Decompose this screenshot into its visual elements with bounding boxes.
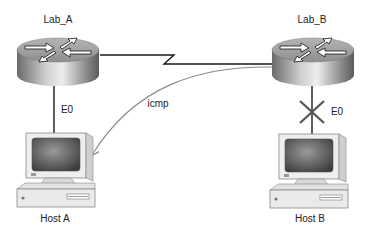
host-label-b: Host B xyxy=(295,213,325,224)
router-label-lab-b: Lab_B xyxy=(298,14,327,25)
interface-label-lab-a-e0: E0 xyxy=(61,104,73,115)
interface-label-lab-b-e0: E0 xyxy=(331,106,343,117)
icmp-arrow xyxy=(92,67,272,155)
router-lab-b-icon xyxy=(272,38,354,86)
icmp-label: icmp xyxy=(147,98,168,109)
router-lab-a-icon xyxy=(17,38,99,86)
host-a-computer-icon xyxy=(17,133,95,207)
serial-link xyxy=(100,55,272,64)
network-diagram xyxy=(0,0,368,234)
router-label-lab-a: Lab_A xyxy=(44,14,73,25)
host-label-a: Host A xyxy=(40,213,69,224)
host-b-computer-icon xyxy=(270,134,348,208)
